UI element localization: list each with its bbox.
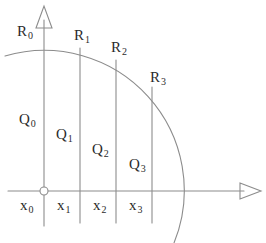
label-R1: R1 — [74, 28, 89, 43]
label-x0: x0 — [20, 198, 33, 213]
label-Q1: Q1 — [56, 127, 72, 142]
label-x3: x3 — [129, 198, 142, 213]
label-R3: R3 — [150, 70, 165, 85]
diagram-canvas: R0 R1 R2 R3 Q0 Q1 Q2 Q3 x0 x1 x2 x3 — [0, 0, 266, 243]
label-Q0: Q0 — [19, 112, 35, 127]
label-Q3: Q3 — [129, 157, 145, 172]
label-x2: x2 — [93, 198, 106, 213]
label-Q2: Q2 — [92, 142, 108, 157]
label-x1: x1 — [57, 198, 70, 213]
label-R0: R0 — [17, 24, 32, 39]
label-R2: R2 — [111, 40, 126, 55]
origin-marker — [40, 187, 48, 195]
